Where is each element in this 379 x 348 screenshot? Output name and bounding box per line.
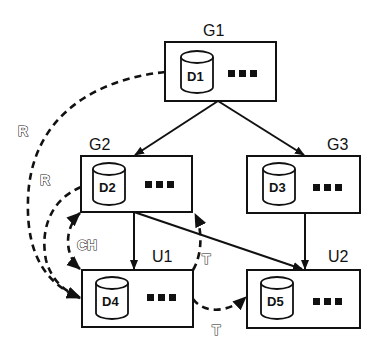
node-label-g1: G1 — [203, 22, 224, 39]
edge-label-t-upper: T — [202, 251, 211, 267]
db-label-d1: D1 — [187, 69, 204, 84]
edge-label-r-outer: R — [18, 123, 28, 139]
ellipsis-icon — [147, 294, 176, 301]
db-label-d3: D3 — [269, 180, 286, 195]
node-label-u1: U1 — [152, 248, 173, 265]
edge-t-lower — [193, 297, 246, 310]
node-g3[interactable]: G3 D3 — [247, 136, 360, 213]
ellipsis-icon — [313, 298, 342, 305]
db-label-d2: D2 — [99, 180, 116, 195]
db-label-d4: D4 — [102, 294, 119, 309]
ellipsis-icon — [313, 184, 342, 191]
hierarchy-diagram: R R CH T T G1 D1 G2 D2 G3 — [0, 0, 379, 348]
edge-label-t-lower: T — [212, 322, 221, 338]
ellipsis-icon — [145, 181, 174, 188]
node-u1[interactable]: U1 D4 — [82, 248, 193, 327]
node-label-u2: U2 — [328, 248, 349, 265]
edge-g1-g3 — [218, 101, 304, 155]
node-g2[interactable]: G2 D2 — [81, 136, 192, 212]
edge-r-inner — [44, 187, 81, 297]
node-g1[interactable]: G1 D1 — [165, 22, 276, 101]
edge-label-r-inner: R — [40, 172, 50, 188]
node-label-g2: G2 — [89, 136, 110, 153]
node-u2[interactable]: U2 D5 — [247, 248, 360, 328]
edge-g1-g2 — [135, 101, 218, 155]
db-label-d5: D5 — [267, 294, 284, 309]
edge-t-upper — [193, 214, 200, 270]
node-label-g3: G3 — [327, 136, 348, 153]
ellipsis-icon — [228, 70, 257, 77]
edge-label-ch: CH — [77, 237, 97, 253]
